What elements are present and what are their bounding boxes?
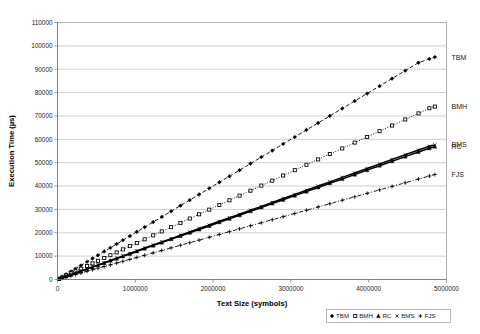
data-point-square-marker: [433, 105, 436, 108]
chart-legend[interactable]: TBMBMHRCBMSFJS: [327, 310, 451, 323]
legend-label: FJS: [424, 312, 435, 319]
data-point-square-marker: [109, 254, 112, 257]
y-tick-label: 110000: [32, 19, 53, 26]
data-point-square-marker: [428, 107, 431, 110]
data-point-square-marker: [293, 169, 296, 172]
x-tick-label: 5000000: [434, 285, 459, 292]
y-tick-label: 20000: [35, 229, 53, 236]
execution-time-vs-text-size-chart: 0100002000030000400005000060000700008000…: [0, 0, 480, 334]
series-end-label-bms: BMS: [452, 141, 468, 148]
data-point-square-marker: [218, 203, 221, 206]
y-tick-label: 100000: [31, 42, 53, 49]
data-point-square-marker: [115, 251, 118, 254]
y-tick-label: 30000: [35, 206, 53, 213]
data-point-square-marker: [238, 194, 241, 197]
x-tick-label: 3000000: [278, 285, 303, 292]
y-tick-label: 50000: [35, 159, 53, 166]
y-tick-label: 60000: [35, 136, 53, 143]
y-tick-label: 40000: [35, 182, 53, 189]
series-end-label-fjs: FJS: [452, 171, 465, 178]
data-point-square-marker: [152, 234, 155, 237]
data-point-square-marker: [404, 118, 407, 121]
data-point-square-marker: [366, 135, 369, 138]
data-point-square-marker: [282, 174, 285, 177]
data-point-square-marker: [96, 259, 99, 262]
data-point-square-marker: [135, 242, 138, 245]
series-end-label-bmh: BMH: [452, 103, 468, 110]
legend-label: TBM: [336, 312, 349, 319]
x-tick-label: 0: [56, 285, 60, 292]
data-point-square-marker: [179, 221, 182, 224]
x-axis-title: Text Size (symbols): [217, 299, 288, 308]
data-point-square-marker: [249, 189, 252, 192]
data-point-square-marker: [128, 245, 131, 248]
data-point-square-marker: [188, 217, 191, 220]
data-point-square-marker: [103, 256, 106, 259]
data-point-square-marker: [208, 208, 211, 211]
y-tick-label: 70000: [35, 112, 53, 119]
y-tick-label: 90000: [35, 66, 53, 73]
data-point-square-marker: [317, 158, 320, 161]
data-point-square-marker: [305, 163, 308, 166]
y-axis-title: Execution Time (µs): [7, 115, 16, 187]
data-point-square-marker: [341, 147, 344, 150]
data-point-square-marker: [417, 112, 420, 115]
y-tick-label: 0: [49, 276, 53, 283]
series-end-label-tbm: TBM: [452, 54, 467, 61]
data-point-square-marker: [160, 230, 163, 233]
x-tick-label: 1000000: [123, 285, 148, 292]
plot-area-border: [58, 23, 447, 280]
data-point-square-marker: [271, 179, 274, 182]
data-point-square-marker: [198, 213, 201, 216]
x-tick-label: 2000000: [201, 285, 226, 292]
legend-label: RC: [382, 312, 391, 319]
data-point-square-marker: [228, 199, 231, 202]
data-point-square-marker: [390, 124, 393, 127]
data-point-square-marker: [378, 130, 381, 133]
y-tick-label: 10000: [35, 252, 53, 259]
legend-label: BMH: [359, 312, 373, 319]
chart-container: 0100002000030000400005000060000700008000…: [0, 0, 480, 334]
data-point-square-marker: [328, 152, 331, 155]
data-point-square-marker: [170, 226, 173, 229]
data-point-square-marker: [143, 238, 146, 241]
legend-marker-square-icon: [354, 314, 357, 317]
data-point-square-marker: [260, 184, 263, 187]
data-point-square-marker: [121, 248, 124, 251]
legend-label: BMS: [401, 312, 414, 319]
y-tick-label: 80000: [35, 89, 53, 96]
x-tick-label: 4000000: [356, 285, 381, 292]
data-point-square-marker: [91, 262, 94, 265]
data-point-square-marker: [353, 141, 356, 144]
